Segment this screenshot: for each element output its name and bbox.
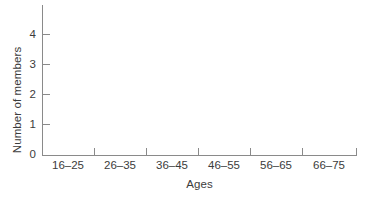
x-tick-label-56-65: 56–65 [250, 159, 302, 171]
x-tick-mark-5 [302, 148, 303, 155]
x-tick-label-36-45: 36–45 [146, 159, 198, 171]
x-tick-mark-0 [42, 148, 43, 155]
x-tick-mark-6 [356, 148, 357, 155]
y-tick-label-3: 3 [20, 59, 36, 70]
x-tick-mark-2 [146, 148, 147, 155]
x-tick-mark-4 [250, 148, 251, 155]
x-tick-label-46-55: 46–55 [198, 159, 250, 171]
y-tick-label-2: 2 [20, 89, 36, 100]
x-tick-mark-1 [94, 148, 95, 155]
x-axis-title: Ages [42, 178, 357, 190]
y-tick-label-0: 0 [20, 149, 36, 160]
x-tick-label-66-75: 66–75 [303, 159, 355, 171]
x-tick-mark-3 [198, 148, 199, 155]
y-tick-label-1: 1 [20, 119, 36, 130]
y-tick-label-4: 4 [20, 29, 36, 40]
x-axis-line [42, 155, 357, 156]
chart-container: Number of members 4 3 2 1 0 16–25 26–35 … [0, 0, 370, 198]
y-axis-title: Number of members [11, 35, 27, 165]
plot-area [43, 5, 357, 155]
x-tick-label-16-25: 16–25 [42, 159, 94, 171]
x-tick-label-26-35: 26–35 [94, 159, 146, 171]
